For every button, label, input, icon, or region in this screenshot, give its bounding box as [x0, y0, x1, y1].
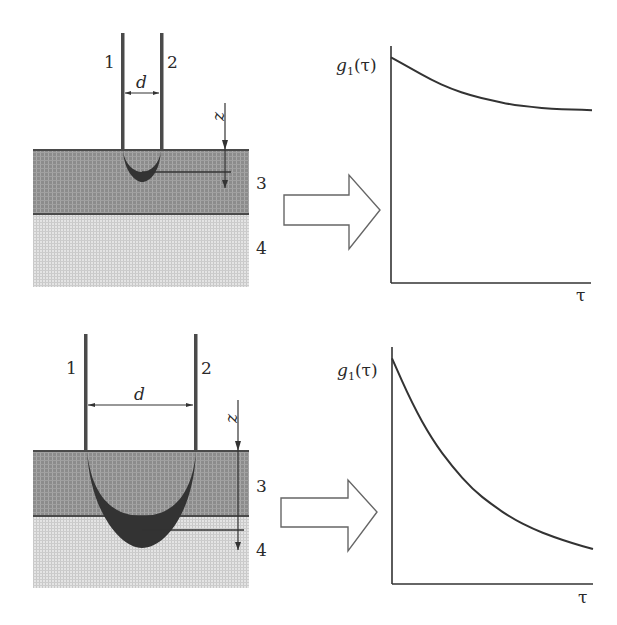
depth-axis-label: z	[224, 413, 244, 424]
layer-3-label: 3	[256, 476, 267, 496]
x-axis-label: τ	[578, 587, 587, 607]
g1-curve-line	[391, 57, 592, 110]
arrow-icon-bottom	[281, 480, 377, 551]
fiber-1	[121, 33, 125, 150]
plot-top: g1(τ) g1(τ) τ	[336, 46, 592, 305]
layer-4	[33, 214, 249, 287]
plot-bottom: g1(τ) τ	[337, 347, 593, 607]
y-axis-label: g1(τ)	[337, 360, 378, 383]
y-axis-label: g1(τ) g1(τ)	[336, 55, 377, 78]
g1-curve-line	[392, 358, 593, 549]
depth-axis-label: z	[211, 111, 231, 122]
layer-3-label: 3	[256, 173, 267, 193]
figure: 1 2 d z 3 4 g1(τ) g1(τ) τ 1 2	[0, 0, 617, 625]
fiber-1-label: 1	[66, 358, 77, 378]
tissue-diagram-top: 1 2 d z 3 4	[33, 33, 267, 287]
layer-4-label: 4	[256, 540, 267, 560]
separation-label: d	[136, 72, 147, 92]
x-axis-label: τ	[576, 285, 585, 305]
fiber-1	[84, 334, 88, 451]
fiber-1-label: 1	[104, 52, 115, 72]
layer-4-label: 4	[256, 238, 267, 258]
layer-3	[33, 451, 249, 516]
arrow-icon-top	[284, 175, 380, 249]
tissue-diagram-bottom: 1 2 d z 3 4	[33, 334, 267, 588]
fiber-2-label: 2	[201, 358, 212, 378]
separation-label: d	[134, 384, 145, 404]
layer-3	[33, 150, 249, 214]
fiber-2	[160, 33, 164, 150]
fiber-2-label: 2	[167, 52, 178, 72]
fiber-2	[194, 334, 198, 451]
